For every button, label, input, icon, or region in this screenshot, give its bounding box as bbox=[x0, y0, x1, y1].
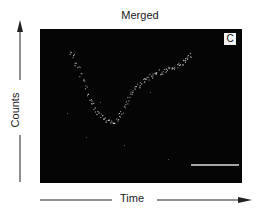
arrow-right-icon bbox=[238, 197, 252, 203]
arrow-up-icon bbox=[17, 20, 23, 32]
axis-arrows bbox=[0, 0, 260, 214]
